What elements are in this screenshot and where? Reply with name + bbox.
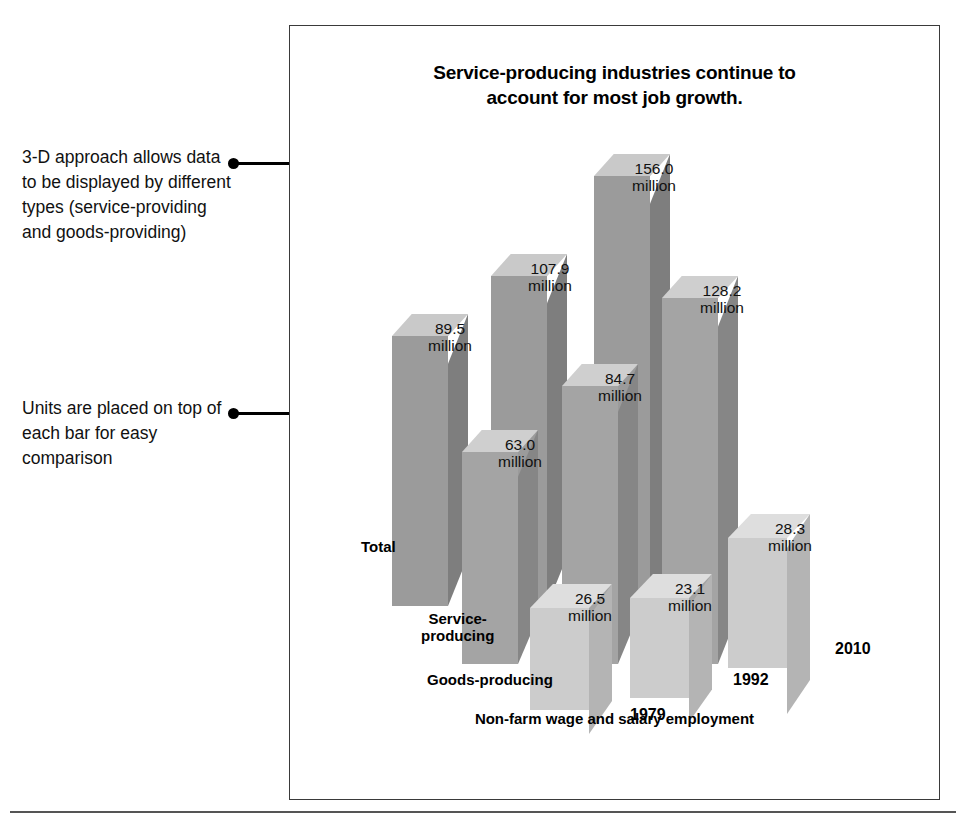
bar-face-top <box>662 276 738 298</box>
category-label-2010: 2010 <box>835 640 871 658</box>
annotation-units: Units are placed on top of each bar for … <box>22 396 232 471</box>
bar-face-top <box>594 154 670 176</box>
category-label-1992: 1992 <box>733 671 769 689</box>
bar-face-front <box>392 336 448 606</box>
bar-face-side <box>689 574 712 722</box>
bar-total-1979[interactable] <box>392 314 468 606</box>
bar-face-front <box>728 538 787 668</box>
series-label-service-line-1: Service- <box>421 610 494 627</box>
chart-frame: Service-producing industries continue to… <box>289 25 940 800</box>
bar-face-top <box>392 314 468 336</box>
bar-face-front <box>630 598 689 698</box>
series-label-service-line-2: producing <box>421 627 494 644</box>
bar-face-front <box>530 608 589 710</box>
bar-goods-1992[interactable] <box>630 574 712 722</box>
series-label-total: Total <box>361 538 396 555</box>
bar-chart-plot: 156.0 million 107.9 million 89.5 million <box>290 26 941 801</box>
bar-face-top <box>462 430 538 452</box>
series-label-service-producing: Service- producing <box>421 610 494 644</box>
bar-face-top <box>562 364 638 386</box>
bar-face-side <box>787 514 810 714</box>
annotation-3d-approach: 3-D approach allows data to be displayed… <box>22 145 232 245</box>
page-divider-rule <box>10 811 956 813</box>
chart-caption: Non-farm wage and salary employment <box>290 710 939 727</box>
bar-face-top <box>491 254 567 276</box>
series-label-goods-producing: Goods-producing <box>427 671 553 688</box>
